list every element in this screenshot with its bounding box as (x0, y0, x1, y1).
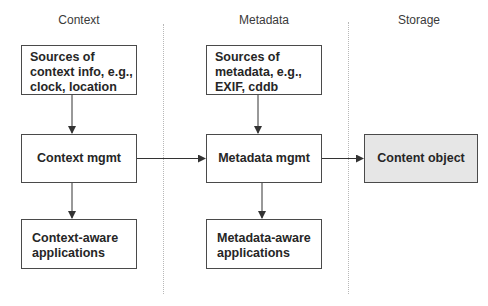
box-metadata-aware-apps: Metadata-aware applications (206, 219, 322, 269)
box-text-line: metadata, e.g., (215, 65, 321, 80)
box-label: Context mgmt (37, 151, 121, 166)
box-text-line: clock, location (30, 80, 136, 95)
box-text-line: context info, e.g., (30, 65, 136, 80)
box-context-aware-apps: Context-aware applications (21, 219, 137, 269)
box-text-line: applications (217, 246, 321, 261)
box-label: Metadata mgmt (218, 151, 310, 166)
box-context-mgmt: Context mgmt (21, 134, 137, 183)
box-text-line: Sources of (30, 50, 136, 65)
box-content-object: Content object (364, 134, 478, 183)
box-text-line: Metadata-aware (217, 231, 321, 246)
box-text-line: Context-aware (32, 231, 136, 246)
box-text-line: EXIF, cddb (215, 80, 321, 95)
box-text-line: Sources of (215, 50, 321, 65)
box-context-sources: Sources of context info, e.g., clock, lo… (21, 45, 137, 95)
box-metadata-sources: Sources of metadata, e.g., EXIF, cddb (206, 45, 322, 95)
box-metadata-mgmt: Metadata mgmt (206, 134, 322, 183)
box-label: Content object (377, 151, 465, 166)
box-text-line: applications (32, 246, 136, 261)
